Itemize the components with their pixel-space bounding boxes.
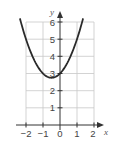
y-axis-arrow-icon bbox=[57, 11, 63, 18]
y-tick-label: 6 bbox=[50, 17, 55, 28]
y-tick-label: 2 bbox=[50, 85, 55, 96]
x-tick-label: 1 bbox=[74, 128, 79, 139]
parabola-chart: −2 −1 0 1 2 x 1 2 3 4 5 6 y bbox=[0, 0, 116, 144]
x-axis-arrow-icon bbox=[97, 122, 104, 128]
y-axis: 1 2 3 4 5 6 y bbox=[49, 7, 63, 130]
x-tick-label: −2 bbox=[21, 128, 32, 139]
x-tick-label: −1 bbox=[38, 128, 49, 139]
y-axis-label: y bbox=[49, 7, 54, 17]
y-tick-label: 4 bbox=[50, 51, 55, 62]
y-tick-label: 1 bbox=[50, 102, 55, 113]
x-axis: −2 −1 0 1 2 x bbox=[16, 122, 108, 139]
y-tick-label: 5 bbox=[50, 34, 55, 45]
x-tick-label: 2 bbox=[90, 128, 95, 139]
x-axis-label: x bbox=[103, 127, 108, 137]
